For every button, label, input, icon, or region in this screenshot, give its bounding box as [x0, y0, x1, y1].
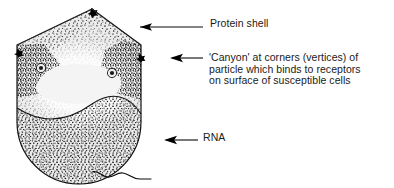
label-canyon: 'Canyon' at corners (vertices) ofparticl… — [209, 52, 361, 87]
label-rna: RNA — [203, 132, 225, 144]
virus-particle-figure — [0, 0, 394, 188]
label-rna-line-1: RNA — [203, 131, 225, 143]
canyon-pit-right — [107, 68, 116, 77]
arrow-rna — [164, 136, 198, 144]
label-protein-shell: Protein shell — [210, 18, 268, 30]
figure-page: Protein shell 'Canyon' at corners (verti… — [0, 0, 394, 188]
leader-arrows — [140, 23, 203, 144]
label-canyon-line-2: particle which binds to receptors — [209, 63, 361, 75]
arrow-canyon — [170, 54, 203, 62]
virus-particle — [0, 0, 394, 188]
canyon-pit-left — [36, 63, 45, 72]
label-protein-shell-line-1: Protein shell — [210, 17, 268, 29]
label-canyon-line-1: 'Canyon' at corners (vertices) of — [209, 51, 358, 63]
label-canyon-line-3: on surface of susceptible cells — [209, 74, 351, 86]
arrow-protein-shell — [140, 23, 203, 31]
